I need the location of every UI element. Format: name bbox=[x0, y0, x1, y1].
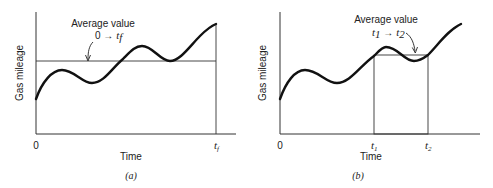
x-axis-label: Time bbox=[360, 151, 382, 162]
panel-caption: (b) bbox=[352, 170, 364, 182]
annotation-arrow bbox=[406, 33, 415, 51]
annotation-title: Average value bbox=[354, 14, 418, 25]
x-axis-label: Time bbox=[120, 151, 142, 162]
annotation-title: Average value bbox=[71, 18, 135, 29]
y-axis-label: Gas mileage bbox=[257, 44, 268, 101]
panel-caption: (a) bbox=[125, 170, 137, 182]
average-value-rectangle bbox=[374, 55, 428, 134]
annotation-range: 0 → tf bbox=[95, 29, 124, 43]
x-start-label: 0 bbox=[277, 140, 283, 151]
mileage-curve bbox=[280, 24, 461, 99]
y-axis-label: Gas mileage bbox=[14, 44, 25, 101]
panel-a: Average value 0 → tf Gas mileage 0 tf Ti… bbox=[14, 12, 236, 182]
annotation-range: t1 → t2 bbox=[372, 26, 405, 40]
x-end-label: tf bbox=[214, 139, 220, 153]
x-start-label: 0 bbox=[33, 140, 39, 151]
gas-mileage-diagram: Average value 0 → tf Gas mileage 0 tf Ti… bbox=[0, 0, 493, 188]
mileage-curve bbox=[36, 24, 216, 99]
annotation-arrow bbox=[88, 42, 93, 59]
panel-b: Average value t1 → t2 Gas mileage 0 t1 t… bbox=[257, 12, 480, 182]
t2-label: t2 bbox=[425, 139, 432, 153]
